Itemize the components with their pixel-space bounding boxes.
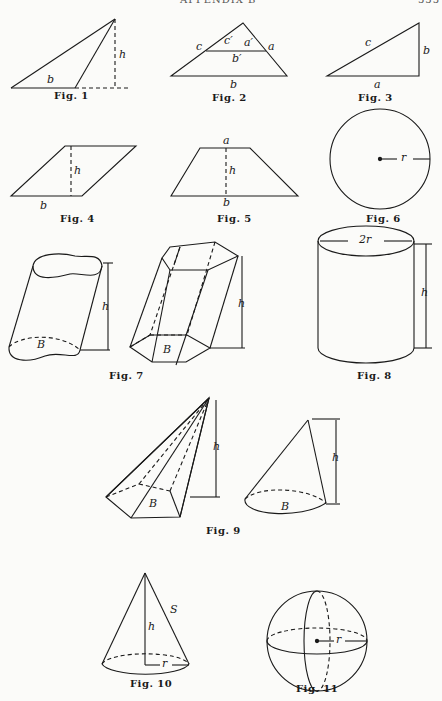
- fig7-label-B1: B: [37, 338, 45, 351]
- fig3-right-triangle: [327, 23, 419, 76]
- fig4-label-b: b: [40, 199, 47, 212]
- fig9-label-B1: B: [149, 497, 157, 510]
- fig5-label-a: a: [223, 134, 230, 147]
- fig3-label-c: c: [365, 36, 371, 49]
- fig1-label-h: h: [119, 48, 126, 61]
- fig6-label-r: r: [401, 151, 406, 164]
- fig2-label-c: c: [196, 40, 202, 53]
- fig9-pyramid: [106, 398, 220, 518]
- fig10-label-S: S: [170, 603, 178, 616]
- fig1-oblique-triangle: [11, 19, 129, 88]
- fig6-caption: Fig. 6: [366, 213, 401, 224]
- fig7-caption: Fig. 7: [109, 370, 144, 381]
- fig11-label-r: r: [336, 633, 341, 646]
- fig8-caption: Fig. 8: [357, 370, 392, 381]
- fig1-caption: Fig. 1: [54, 90, 89, 101]
- fig3-label-a: a: [374, 78, 381, 91]
- fig4-label-h: h: [74, 164, 81, 177]
- fig6-circle: [330, 109, 430, 209]
- fig10-label-h: h: [148, 620, 155, 633]
- fig9-label-h2: h: [332, 451, 339, 464]
- fig11-sphere: [267, 591, 367, 691]
- fig5-label-h: h: [229, 164, 236, 177]
- fig2-label-a-prime: a′: [244, 36, 253, 49]
- fig7-label-B2: B: [163, 343, 171, 356]
- fig5-label-b: b: [223, 196, 230, 209]
- fig8-right-cylinder: [318, 226, 432, 363]
- fig4-caption: Fig. 4: [60, 213, 95, 224]
- fig8-label-2r: 2r: [359, 233, 371, 246]
- fig1-label-b: b: [47, 73, 54, 86]
- fig2-label-c-prime: c′: [224, 34, 233, 47]
- fig9-label-h1: h: [213, 440, 220, 453]
- fig10-label-r: r: [162, 657, 167, 670]
- fig10-caption: Fig. 10: [130, 678, 172, 689]
- fig10-right-cone: [102, 573, 189, 674]
- fig2-caption: Fig. 2: [212, 92, 247, 103]
- fig5-caption: Fig. 5: [217, 213, 252, 224]
- fig9-caption: Fig. 9: [206, 525, 241, 536]
- fig7-oblique-cylinder: [9, 254, 113, 360]
- fig9-oblique-cone: [245, 419, 340, 514]
- figures-canvas: [0, 0, 442, 701]
- fig2-label-b: b: [230, 78, 237, 91]
- fig8-label-h: h: [421, 286, 428, 299]
- fig7-label-h1: h: [102, 300, 109, 313]
- fig7-label-h2: h: [238, 297, 245, 310]
- fig9-label-B2: B: [281, 500, 289, 513]
- fig7-oblique-prism: [130, 242, 245, 365]
- fig11-caption: Fig. 11: [296, 683, 338, 694]
- fig3-caption: Fig. 3: [358, 92, 393, 103]
- fig3-label-b: b: [423, 44, 430, 57]
- fig2-label-b-prime: b′: [232, 52, 242, 65]
- fig2-label-a: a: [268, 40, 275, 53]
